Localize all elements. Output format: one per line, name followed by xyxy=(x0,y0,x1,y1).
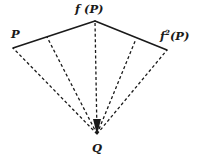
label-p: P xyxy=(11,29,20,41)
solid-edge-group xyxy=(13,21,167,50)
figure-container: f (P) P f2(P) Q xyxy=(0,0,198,162)
ray-to-f2P-line xyxy=(97,50,167,134)
edge-P-to-fP xyxy=(13,21,95,48)
edge-fP-to-f2P xyxy=(95,21,167,50)
label-f-squared-of-p: f2(P) xyxy=(160,31,189,43)
ray-2-line xyxy=(97,39,136,134)
label-f-of-p: f (P) xyxy=(75,4,103,16)
label-f-squared-suffix: (P) xyxy=(170,29,190,43)
geometry-diagram xyxy=(0,0,198,162)
ray-to-P-line xyxy=(13,48,97,134)
ray-to-fP-line xyxy=(95,21,97,134)
dashed-ray-group xyxy=(13,21,167,134)
label-q: Q xyxy=(92,143,102,155)
ray-1-line xyxy=(47,37,97,134)
